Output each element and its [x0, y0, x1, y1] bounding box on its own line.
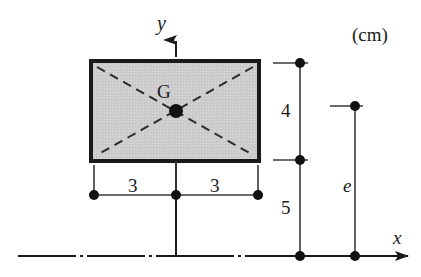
horizontal-dimension-group	[89, 161, 263, 200]
dim-dot-vmid	[295, 155, 305, 165]
dim-dot-vbottom	[295, 251, 305, 261]
engineering-diagram: y x (cm) G 3 3 4 5 e	[0, 0, 421, 277]
vertical-dimension-group	[273, 58, 308, 261]
centroid-label: G	[157, 82, 171, 101]
centroid-marker	[169, 104, 183, 118]
dim-dot-vtop	[295, 58, 305, 68]
x-axis-label: x	[393, 228, 401, 247]
dim-dot-center	[171, 190, 181, 200]
rectangular-section	[91, 61, 259, 161]
dim-dot-ebottom	[350, 251, 360, 261]
dimension-label-3-right: 3	[210, 176, 220, 195]
dimension-label-5: 5	[281, 198, 291, 217]
unit-label: (cm)	[352, 25, 388, 44]
y-axis-label: y	[157, 13, 166, 33]
dimension-label-eccentricity: e	[343, 176, 351, 195]
dim-dot-etop	[350, 101, 360, 111]
dim-dot-right	[253, 190, 263, 200]
dim-dot-left	[89, 190, 99, 200]
dimension-label-3-left: 3	[128, 176, 138, 195]
dimension-label-4: 4	[281, 101, 291, 120]
